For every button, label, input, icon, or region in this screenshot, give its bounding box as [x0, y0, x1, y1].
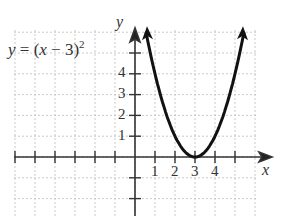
y-tick-label-2: 2	[118, 107, 126, 122]
graph-canvas	[0, 0, 287, 216]
equation-label: y = (x − 3)2	[8, 38, 85, 60]
y-tick-label-4: 4	[118, 65, 126, 80]
x-tick-label-2: 2	[171, 164, 179, 179]
x-tick-label-1: 1	[151, 164, 159, 179]
y-axis-label: y	[116, 14, 123, 30]
y-tick-label-3: 3	[118, 86, 126, 101]
x-tick-label-3: 3	[191, 164, 199, 179]
x-tick-label-4: 4	[211, 164, 219, 179]
x-axis-label: x	[262, 162, 269, 178]
y-tick-label-1: 1	[118, 128, 126, 143]
